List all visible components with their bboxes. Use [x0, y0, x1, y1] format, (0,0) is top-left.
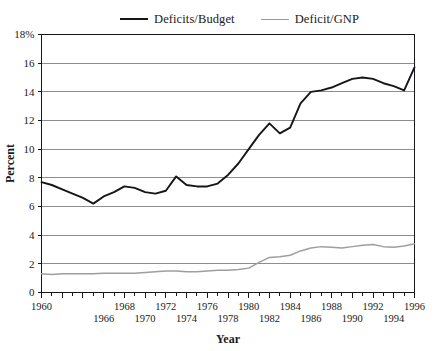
chart-plot-area: 024681012141618% 19601968197219761980198… — [0, 0, 443, 351]
y-tick-label: 0 — [29, 286, 35, 298]
y-tick-label: 6 — [29, 200, 35, 212]
y-tick-label: 18% — [14, 28, 34, 40]
x-tick-group — [42, 293, 415, 299]
x-tick-label-group: 1960196819721976198019841988199219961966… — [31, 301, 425, 324]
y-tick-label: 16 — [24, 57, 36, 69]
y-tick-label-group: 024681012141618% — [14, 28, 35, 298]
x-tick-label-upper: 1984 — [280, 301, 302, 312]
y-tick-label: 2 — [29, 258, 35, 270]
x-tick-label-lower: 1982 — [259, 313, 280, 324]
x-tick-label-lower: 1994 — [383, 313, 405, 324]
x-tick-label-lower: 1966 — [93, 313, 114, 324]
x-tick-label-lower: 1986 — [300, 313, 321, 324]
x-tick-label-lower: 1978 — [218, 313, 239, 324]
x-tick-label-upper: 1972 — [155, 301, 176, 312]
x-tick-label-upper: 1992 — [363, 301, 384, 312]
x-tick-label-upper: 1980 — [238, 301, 259, 312]
x-tick-label-upper: 1968 — [114, 301, 135, 312]
series-line-deficits-budget — [42, 67, 415, 203]
y-tick-label: 10 — [24, 143, 36, 155]
x-tick-label-upper: 1960 — [31, 301, 52, 312]
y-tick-label: 14 — [24, 86, 36, 98]
chart-figure: Deficits/Budget Deficit/GNP 024681012141… — [0, 0, 443, 351]
x-tick-label-lower: 1970 — [135, 313, 156, 324]
y-tick-label: 4 — [29, 229, 35, 241]
x-tick-label-lower: 1974 — [176, 313, 198, 324]
x-tick-label-lower: 1990 — [342, 313, 363, 324]
x-tick-label-upper: 1976 — [197, 301, 218, 312]
x-tick-label-upper: 1996 — [404, 301, 425, 312]
series-group — [42, 67, 415, 274]
plot-frame — [42, 35, 415, 293]
y-tick-label: 12 — [24, 114, 35, 126]
y-axis-title: Percent — [3, 144, 17, 183]
x-axis-title: Year — [216, 332, 241, 346]
y-tick-label: 8 — [29, 172, 35, 184]
x-tick-label-upper: 1988 — [321, 301, 342, 312]
series-line-deficit-gnp — [42, 244, 415, 275]
gridlines-group — [42, 63, 415, 264]
